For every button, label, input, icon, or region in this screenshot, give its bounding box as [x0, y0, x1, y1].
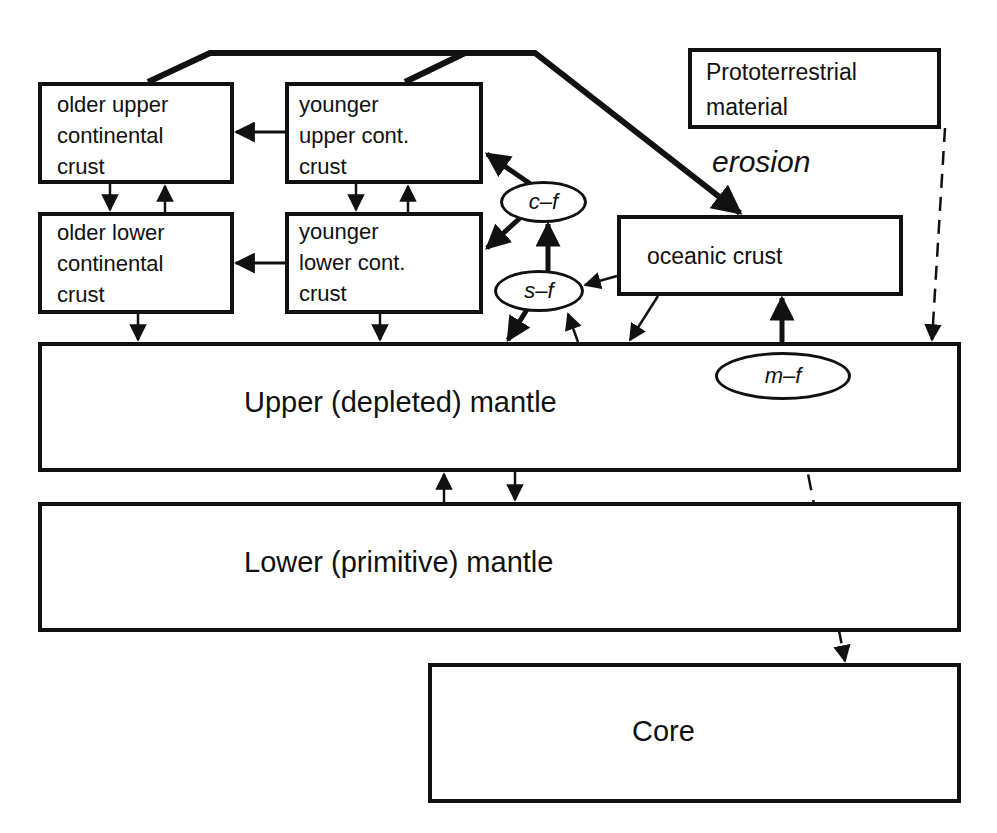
younger-lower-crust-box: younger lower cont. crust: [285, 212, 483, 314]
prototerrestrial-box: Prototerrestrial material: [688, 48, 941, 129]
lower-mantle-label: Lower (primitive) mantle: [244, 546, 553, 579]
younger-upper-crust-box: younger upper cont. crust: [285, 82, 483, 184]
cf-process-oval: c–f: [500, 181, 587, 223]
upper-mantle-label: Upper (depleted) mantle: [244, 386, 557, 419]
mf-process-oval: m–f: [715, 352, 851, 400]
older-lower-crust-label: older lower continental crust: [57, 217, 165, 310]
core-label: Core: [632, 715, 695, 748]
oceanic-crust-box: oceanic crust: [617, 215, 903, 296]
erosion-label: erosion: [712, 145, 810, 179]
core-box: Core: [428, 663, 961, 803]
prototerrestrial-label: Prototerrestrial material: [706, 55, 857, 125]
arrow-oceanic-to-sf: [585, 276, 617, 285]
older-lower-crust-box: older lower continental crust: [38, 212, 234, 314]
arrow-sf-to-mantle: [508, 308, 528, 340]
older-upper-crust-box: older upper continental crust: [38, 82, 234, 184]
arrow-mantle-to-sf: [568, 314, 578, 342]
arrow-cf-to-younger-upper: [487, 154, 532, 185]
arrow-cf-to-younger-lower: [487, 218, 520, 248]
oceanic-crust-label: oceanic crust: [647, 241, 783, 272]
older-upper-crust-label: older upper continental crust: [57, 89, 168, 182]
arrow-proto-to-mantle: [932, 128, 945, 340]
lower-mantle-box: Lower (primitive) mantle: [38, 502, 961, 632]
younger-lower-crust-label: younger lower cont. crust: [299, 216, 405, 309]
younger-upper-crust-label: younger upper cont. crust: [299, 89, 409, 182]
arrow-oceanic-to-mantle: [630, 296, 658, 340]
sf-process-oval: s–f: [494, 270, 584, 312]
